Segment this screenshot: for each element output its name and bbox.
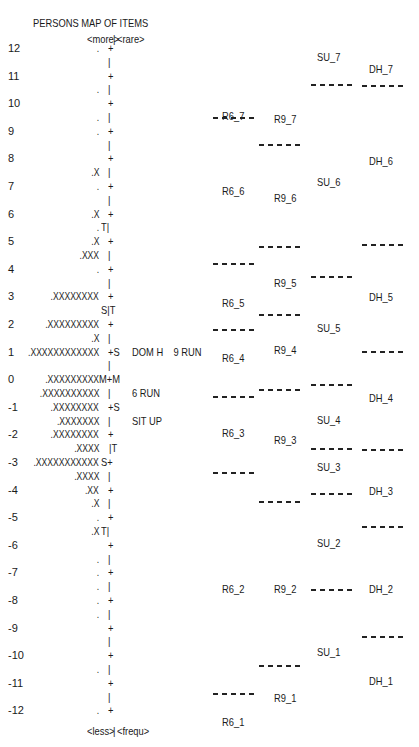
axis-tick-label: -8: [0, 594, 34, 606]
axis-tick-label: 11: [0, 70, 34, 82]
threshold-label: R6_1: [222, 716, 244, 728]
person-count: .XXXXXXXX: [51, 290, 99, 302]
person-count: .XXXXXXXX: [51, 401, 99, 413]
axis-mark: S+: [101, 456, 113, 468]
axis-mark: |: [108, 166, 110, 178]
item-label: 6 RUN: [132, 387, 160, 399]
axis-mark: +S: [108, 346, 120, 358]
threshold-line: [213, 263, 256, 265]
axis-mark: |: [108, 415, 110, 427]
item-label: DOM H 9 RUN: [132, 346, 202, 358]
threshold-label: R6_2: [222, 583, 244, 595]
axis-mark: +: [108, 235, 113, 247]
axis-mark: +: [108, 180, 113, 192]
person-count: .X: [91, 497, 99, 509]
axis-tick-label: 0: [0, 373, 34, 385]
axis-mark: +: [108, 622, 113, 634]
axis-mark: |T: [109, 442, 117, 454]
threshold-line: [259, 246, 302, 248]
axis-mark: +: [108, 511, 113, 523]
bottom-axis-divider: |: [113, 725, 115, 737]
threshold-label: SU_1: [317, 646, 340, 658]
axis-tick-label: 12: [0, 42, 34, 54]
axis-tick-label: -11: [0, 677, 34, 689]
top-label-rare: <rare>: [117, 33, 145, 45]
axis-mark: +: [108, 484, 113, 496]
threshold-label: SU_4: [317, 414, 340, 426]
threshold-label: SU_3: [317, 461, 340, 473]
person-count: .XX: [85, 484, 99, 496]
person-count: .: [97, 180, 99, 192]
threshold-line: [311, 493, 354, 495]
threshold-label: R6_7: [222, 110, 244, 122]
threshold-label: R9_2: [274, 583, 296, 595]
threshold-label: DH_6: [369, 155, 393, 167]
threshold-line: [311, 276, 354, 278]
threshold-label: DH_1: [369, 675, 393, 687]
axis-mark: +S: [108, 401, 120, 413]
axis-mark: +: [108, 649, 113, 661]
axis-mark: T|: [101, 525, 109, 537]
axis-tick-label: -3: [0, 456, 34, 468]
axis-mark: |: [108, 663, 110, 675]
axis-tick-label: -4: [0, 484, 34, 496]
chart-title: PERSONS MAP OF ITEMS: [33, 17, 148, 29]
axis-tick-label: 2: [0, 318, 34, 330]
person-count: .XXXXXXXXXX: [39, 387, 99, 399]
axis-tick-label: 6: [0, 208, 34, 220]
threshold-label: SU_6: [317, 176, 340, 188]
person-count: .X: [91, 525, 99, 537]
person-count: .XXXXXXXXX: [45, 373, 99, 385]
person-count: .XXXXXXXXXXXX: [28, 346, 99, 358]
person-count: .: [97, 83, 99, 95]
threshold-line: [259, 665, 302, 667]
threshold-line: [213, 117, 256, 119]
axis-tick-label: 7: [0, 180, 34, 192]
axis-mark: |: [108, 56, 110, 68]
person-count: .: [97, 553, 99, 565]
axis-mark: |: [108, 359, 110, 371]
axis-mark: |: [108, 580, 110, 592]
person-count: .: [97, 511, 99, 523]
threshold-label: SU_7: [317, 51, 340, 63]
person-count: .: [97, 111, 99, 123]
person-count: .XXX: [79, 249, 99, 261]
person-count: .X: [91, 208, 99, 220]
threshold-line: [213, 693, 256, 695]
threshold-line: [213, 472, 256, 474]
axis-mark: |: [108, 83, 110, 95]
threshold-line: [311, 448, 354, 450]
axis-mark: +: [108, 97, 113, 109]
person-count: .: [97, 663, 99, 675]
axis-tick-label: -6: [0, 539, 34, 551]
threshold-label: R6_3: [222, 427, 244, 439]
person-count: .XXXX: [74, 442, 99, 454]
threshold-label: R9_6: [274, 192, 296, 204]
person-count: .: [97, 221, 99, 233]
axis-mark: T|: [101, 221, 109, 233]
person-count: .: [97, 42, 99, 54]
axis-mark: |: [108, 608, 110, 620]
threshold-label: DH_2: [369, 583, 393, 595]
threshold-line: [362, 636, 405, 638]
person-count: .: [97, 594, 99, 606]
threshold-line: [311, 84, 354, 86]
axis-mark: |: [108, 111, 110, 123]
person-count: .XXXXXXXXXXX: [34, 456, 99, 468]
axis-mark: +: [108, 566, 113, 578]
threshold-line: [362, 526, 405, 528]
axis-mark: |: [108, 249, 110, 261]
axis-mark: +: [108, 263, 113, 275]
axis-mark: |: [108, 470, 110, 482]
axis-mark: +: [108, 42, 113, 54]
axis-tick-label: -10: [0, 649, 34, 661]
axis-mark: |: [108, 497, 110, 509]
threshold-line: [213, 329, 256, 331]
axis-mark: |: [108, 194, 110, 206]
threshold-label: R9_4: [274, 344, 296, 356]
person-count: .X: [91, 235, 99, 247]
axis-tick-label: -12: [0, 704, 34, 716]
axis-mark: +: [108, 70, 113, 82]
threshold-label: DH_3: [369, 485, 393, 497]
person-count: .X: [91, 166, 99, 178]
